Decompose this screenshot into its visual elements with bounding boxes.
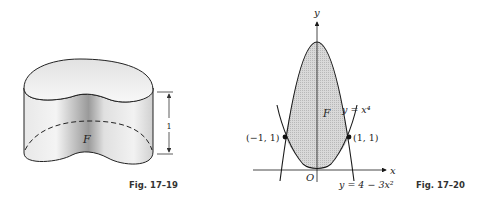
figure-caption: Fig. 17–19 [129,180,178,190]
curve-label-quartic: y = x⁴ [341,104,371,115]
point-1-1 [347,135,352,140]
figure-graph: x y O (−1, 1) (1, 1) F y = x⁴ y = 4 − 3x… [246,7,465,190]
figure-caption-2: Fig. 17–20 [416,180,465,190]
origin-label: O [306,172,314,183]
region-label-f: F [82,133,91,146]
x-axis-label: x [390,165,396,176]
curve-label-parabola: y = 4 − 3x² [338,179,394,190]
figure-cylinder: F 1 Fig. 17–19 [24,59,178,190]
point-label-1-1: (1, 1) [353,132,379,143]
point-neg1-1 [283,135,288,140]
height-label: 1 [167,122,172,131]
region-label-f-graph: F [322,107,331,119]
y-axis-label: y [313,7,320,18]
point-label-neg1-1: (−1, 1) [246,132,280,143]
